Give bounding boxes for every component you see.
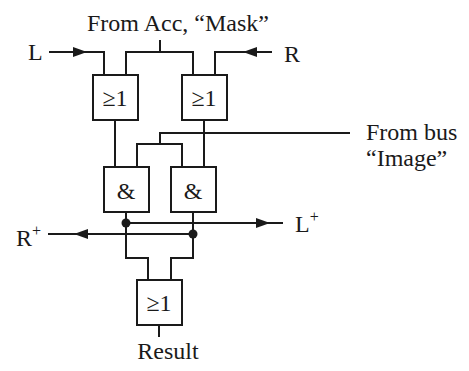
r-input-label: R bbox=[284, 41, 300, 67]
junction-dot bbox=[189, 230, 198, 239]
l-plus-output-wire bbox=[122, 218, 284, 228]
mask-wire bbox=[126, 40, 193, 75]
arrow-left-icon bbox=[243, 47, 257, 57]
or-gate-symbol: ≥1 bbox=[146, 290, 171, 316]
bus-input-label-line2: “Image” bbox=[366, 145, 447, 171]
logic-diagram: From Acc, “Mask” L R ≥1 ≥1 From bus “Ima… bbox=[0, 0, 469, 371]
and-gate-left: & bbox=[104, 167, 149, 212]
r-input-wire bbox=[215, 47, 272, 75]
bus-input-label-line1: From bus bbox=[366, 119, 457, 145]
arrow-right-icon bbox=[73, 47, 87, 57]
result-label: Result bbox=[137, 338, 199, 364]
or-gate-top-left: ≥1 bbox=[93, 75, 138, 120]
image-bus-wire bbox=[137, 133, 350, 167]
and-gate-symbol: & bbox=[184, 178, 203, 204]
or-gate-bottom: ≥1 bbox=[137, 280, 182, 325]
l-input-label: L bbox=[28, 39, 43, 65]
or-gate-symbol: ≥1 bbox=[191, 85, 216, 111]
r-plus-output-wire bbox=[48, 229, 198, 239]
junction-dot bbox=[122, 219, 131, 228]
arrow-right-icon bbox=[256, 218, 270, 228]
and-gate-right: & bbox=[171, 167, 216, 212]
or-gate-symbol: ≥1 bbox=[102, 85, 127, 111]
r-plus-output-label: R+ bbox=[16, 222, 41, 251]
mask-input-label: From Acc, “Mask” bbox=[87, 10, 269, 36]
l-plus-output-label: L+ bbox=[295, 208, 319, 237]
arrow-left-icon bbox=[74, 229, 88, 239]
or-gate-top-right: ≥1 bbox=[182, 75, 227, 120]
and-gate-symbol: & bbox=[117, 178, 136, 204]
l-input-wire bbox=[49, 47, 104, 75]
